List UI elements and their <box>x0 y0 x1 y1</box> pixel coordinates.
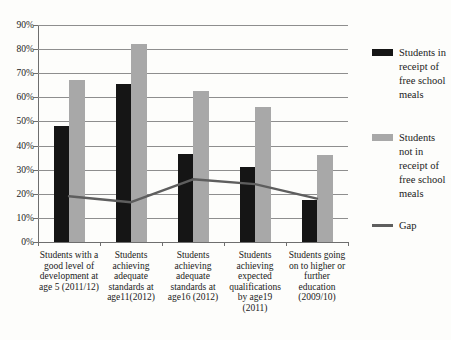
legend-bar-swatch <box>372 134 393 141</box>
x-category-label: Students with a good level of developmen… <box>38 250 100 313</box>
x-tick <box>162 242 163 246</box>
bar-non-fsm <box>193 91 209 242</box>
y-tick-label: 60% <box>0 93 34 102</box>
bar-fsm <box>54 126 70 242</box>
x-category-label: Students achieving expected qualificatio… <box>224 250 286 313</box>
y-tick-label: 70% <box>0 69 34 78</box>
y-tick-label: 40% <box>0 141 34 150</box>
x-tick <box>224 242 225 246</box>
legend-entry: Students in receipt of free school meals <box>372 46 449 102</box>
y-tick-label: 50% <box>0 117 34 126</box>
bar-fsm <box>178 154 194 242</box>
gridline <box>38 242 348 243</box>
x-tick <box>286 242 287 246</box>
x-axis-labels: Students with a good level of developmen… <box>38 250 348 313</box>
bar-group <box>162 25 224 242</box>
legend-label: Gap <box>399 219 449 233</box>
x-category-label: Students achieving adequate standards at… <box>100 250 162 313</box>
y-tick-label: 0% <box>0 238 34 247</box>
bar-groups <box>38 25 348 242</box>
x-tick <box>38 242 39 246</box>
legend-label: Students in receipt of free school meals <box>399 46 449 102</box>
y-axis-labels: 90%80%70%60%50%40%30%20%10%0% <box>0 25 34 242</box>
x-category-label: Students going on to higher or further e… <box>286 250 348 313</box>
bar-fsm <box>240 167 256 242</box>
y-tick-label: 20% <box>0 189 34 198</box>
x-tick <box>100 242 101 246</box>
bar-fsm <box>302 200 318 242</box>
y-tick-label: 80% <box>0 45 34 54</box>
plot-area <box>38 25 348 242</box>
legend-line-swatch <box>372 224 393 227</box>
bar-group <box>224 25 286 242</box>
bar-chart: 90%80%70%60%50%40%30%20%10%0% Students w… <box>0 0 451 340</box>
bar-non-fsm <box>317 155 333 242</box>
x-category-label: Students achieving adequate standards at… <box>162 250 224 313</box>
bar-non-fsm <box>255 107 271 242</box>
bar-group <box>38 25 100 242</box>
bar-group <box>286 25 348 242</box>
y-tick-label: 10% <box>0 213 34 222</box>
legend-entry: Students not in receipt of free school m… <box>372 131 449 201</box>
y-tick-label: 90% <box>0 21 34 30</box>
bar-fsm <box>116 84 132 242</box>
legend-entry: Gap <box>372 219 449 233</box>
bar-non-fsm <box>131 44 147 242</box>
y-tick-label: 30% <box>0 165 34 174</box>
bar-non-fsm <box>69 80 85 242</box>
x-tick <box>348 242 349 246</box>
legend: Students in receipt of free school meals… <box>372 0 450 340</box>
legend-bar-swatch <box>372 49 393 56</box>
bar-group <box>100 25 162 242</box>
legend-label: Students not in receipt of free school m… <box>399 131 449 201</box>
